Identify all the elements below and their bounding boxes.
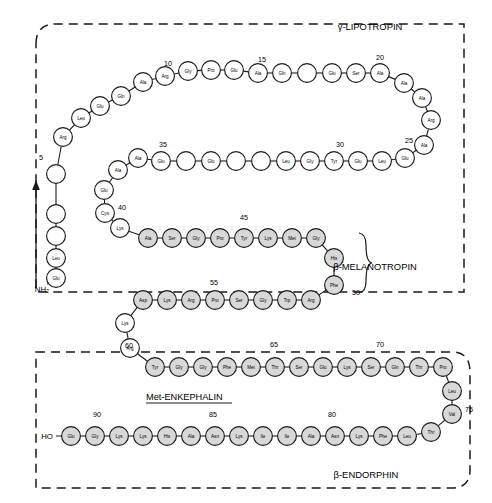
residue-89[interactable]: Lys: [110, 427, 129, 446]
residue-90[interactable]: Gly: [86, 427, 105, 446]
residue-6[interactable]: Arg: [54, 128, 73, 147]
residue-81[interactable]: Ala: [302, 427, 321, 446]
residue-36[interactable]: Ala: [129, 149, 148, 168]
residue-18[interactable]: Glu: [323, 64, 342, 83]
residue-65[interactable]: Met: [242, 358, 261, 377]
residue-circle[interactable]: [47, 165, 66, 184]
residue-15[interactable]: Ala: [249, 64, 268, 83]
residue-85[interactable]: Asn: [206, 427, 225, 446]
residue-50[interactable]: Phe: [325, 276, 344, 295]
residue-11[interactable]: Arg: [156, 67, 175, 86]
residue-72[interactable]: Thr: [410, 358, 429, 377]
residue-71[interactable]: Gln: [386, 358, 405, 377]
residue-16[interactable]: Gln: [273, 64, 292, 83]
residue-4[interactable]: [47, 205, 66, 224]
residue-circle[interactable]: [47, 205, 66, 224]
residue-43[interactable]: Gly: [187, 229, 206, 248]
residue-24[interactable]: Ala: [415, 136, 434, 155]
residue-26[interactable]: Leu: [373, 152, 392, 171]
residue-41[interactable]: Ala: [139, 229, 158, 248]
residue-label: Ala: [135, 156, 142, 161]
residue-29[interactable]: Gly: [301, 152, 320, 171]
residue-1[interactable]: Glu: [47, 269, 66, 288]
residue-circle[interactable]: [227, 152, 246, 171]
residue-70[interactable]: Ser: [362, 358, 381, 377]
residue-52[interactable]: Trp: [278, 291, 297, 310]
residue-21[interactable]: Ala: [395, 74, 414, 93]
residue-9[interactable]: Gln: [112, 87, 131, 106]
residue-57[interactable]: Lys: [158, 291, 177, 310]
residue-54[interactable]: Ser: [230, 291, 249, 310]
residue-19[interactable]: Ser: [347, 64, 366, 83]
residue-86[interactable]: Ala: [182, 427, 201, 446]
residue-53[interactable]: Gly: [254, 291, 273, 310]
residue-66[interactable]: Thr: [266, 358, 285, 377]
residue-61[interactable]: Tyr: [146, 358, 165, 377]
residue-38[interactable]: Glu: [95, 181, 114, 200]
residue-28[interactable]: Tyr: [325, 152, 344, 171]
residue-circle[interactable]: [252, 152, 271, 171]
residue-2[interactable]: Leu: [47, 249, 66, 268]
residue-circle[interactable]: [47, 227, 66, 246]
residue-13[interactable]: Pro: [202, 61, 221, 80]
residue-30[interactable]: Leu: [277, 152, 296, 171]
residue-46[interactable]: Lys: [259, 229, 278, 248]
residue-circle[interactable]: [298, 64, 317, 83]
residue-47[interactable]: Met: [283, 229, 302, 248]
residue-31[interactable]: [252, 152, 271, 171]
residue-63[interactable]: Gly: [194, 358, 213, 377]
residue-55[interactable]: Pro: [206, 291, 225, 310]
residue-73[interactable]: Pro: [434, 358, 453, 377]
residue-88[interactable]: Lys: [134, 427, 153, 446]
residue-74[interactable]: Leu: [443, 382, 462, 401]
residue-44[interactable]: Pro: [211, 229, 230, 248]
residue-82[interactable]: Ile: [278, 427, 297, 446]
residue-78[interactable]: Phe: [374, 427, 393, 446]
residue-75[interactable]: Val: [443, 405, 462, 424]
residue-label: Asn: [331, 434, 339, 439]
residue-12[interactable]: Gly: [179, 62, 198, 81]
residue-8[interactable]: Glu: [91, 97, 110, 116]
residue-17[interactable]: [298, 64, 317, 83]
residue-69[interactable]: Lys: [338, 358, 357, 377]
residue-label: Gly: [200, 365, 208, 370]
residue-77[interactable]: Leu: [398, 427, 417, 446]
residue-33[interactable]: Glu: [202, 152, 221, 171]
residue-80[interactable]: Asn: [326, 427, 345, 446]
residue-42[interactable]: Ser: [163, 229, 182, 248]
residue-27[interactable]: Glu: [349, 152, 368, 171]
residue-35[interactable]: Glu: [152, 152, 171, 171]
residue-37[interactable]: Ala: [109, 161, 128, 180]
residue-45[interactable]: Tyr: [235, 229, 254, 248]
residue-34[interactable]: [177, 152, 196, 171]
residue-14[interactable]: Glu: [225, 61, 244, 80]
residue-79[interactable]: Lys: [350, 427, 369, 446]
residue-label: Leu: [448, 389, 456, 394]
residue-84[interactable]: Lys: [230, 427, 249, 446]
residue-68[interactable]: Glu: [314, 358, 333, 377]
residue-22[interactable]: Ala: [413, 89, 432, 108]
residue-48[interactable]: Gly: [307, 229, 326, 248]
residue-10[interactable]: Ala: [134, 73, 153, 92]
residue-32[interactable]: [227, 152, 246, 171]
residue-7[interactable]: Leu: [72, 109, 91, 128]
residue-62[interactable]: Gly: [170, 358, 189, 377]
residue-67[interactable]: Ser: [290, 358, 309, 377]
residue-5[interactable]: [47, 165, 66, 184]
residue-76[interactable]: Thr: [422, 423, 441, 442]
residue-3[interactable]: [47, 227, 66, 246]
residue-39[interactable]: Cys: [96, 204, 115, 223]
residue-83[interactable]: Ile: [254, 427, 273, 446]
residue-87[interactable]: His: [158, 427, 177, 446]
residue-91[interactable]: Glu: [62, 427, 81, 446]
residue-20[interactable]: Ala: [371, 64, 390, 83]
residue-circle[interactable]: [177, 152, 196, 171]
residue-56[interactable]: Arg: [182, 291, 201, 310]
residue-59[interactable]: Lys: [116, 314, 135, 333]
residue-51[interactable]: Arg: [302, 291, 321, 310]
residue-40[interactable]: Lys: [111, 219, 130, 238]
residue-25[interactable]: Glu: [396, 149, 415, 168]
residue-64[interactable]: Phe: [218, 358, 237, 377]
residue-23[interactable]: Arg: [422, 111, 441, 130]
residue-58[interactable]: Asp: [134, 291, 153, 310]
